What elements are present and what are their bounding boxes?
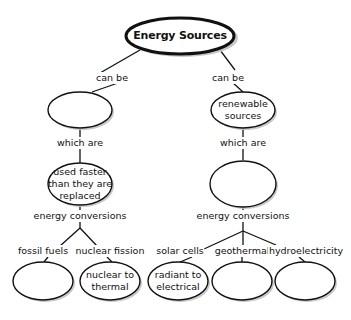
link-fossil-fuels: fossil fuels	[17, 245, 69, 257]
right-type-node: renewable sources	[218, 98, 268, 122]
link-right-which-are: which are	[219, 137, 267, 149]
fossil-node-shape	[13, 262, 73, 300]
link-left-energy-conversions: energy conversions	[33, 210, 128, 222]
concept-map: Energy Sources renewable sources used fa…	[0, 0, 351, 320]
link-right-can-be: can be	[211, 72, 245, 84]
node-shadows	[15, 19, 337, 302]
link-nuclear-fission: nuclear fission	[75, 245, 146, 257]
connector-lines	[44, 50, 305, 262]
node-ellipses	[13, 18, 335, 300]
geothermal-node-shape	[212, 262, 272, 300]
nuclear-conversion-node: nuclear to thermal	[86, 269, 134, 293]
link-geothermal: geothermal	[214, 245, 271, 257]
link-hydroelectricity: hydroelectricity	[268, 245, 344, 257]
left-property-node: used faster than they are replaced	[48, 166, 112, 202]
hydro-node-shape	[275, 262, 335, 300]
left-type-node-shape	[48, 92, 112, 128]
link-solar-cells: solar cells	[155, 245, 204, 257]
solar-conversion-node: radiant to electrical	[155, 269, 202, 293]
root-node: Energy Sources	[133, 30, 227, 42]
link-right-energy-conversions: energy conversions	[196, 210, 291, 222]
link-left-can-be: can be	[95, 72, 129, 84]
right-property-node-shape	[210, 161, 276, 207]
link-left-which-are: which are	[56, 137, 104, 149]
